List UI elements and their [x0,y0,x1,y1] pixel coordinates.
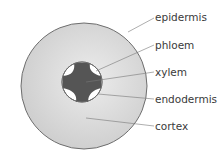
label-endodermis: endodermis [155,93,217,105]
root-cross-section-diagram [0,0,219,156]
label-phloem: phloem [155,39,194,51]
label-xylem: xylem [155,66,187,78]
label-cortex: cortex [155,120,188,132]
label-epidermis: epidermis [155,11,207,23]
